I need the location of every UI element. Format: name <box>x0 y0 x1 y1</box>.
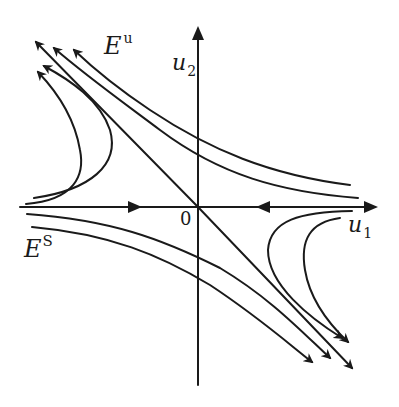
u1-subscript: 1 <box>363 225 372 241</box>
u2-axis-arrowhead-icon <box>192 26 204 40</box>
u2-subscript: 2 <box>187 63 196 79</box>
es-base: E <box>24 235 42 263</box>
es-superscript: S <box>43 232 53 250</box>
u1-base: u <box>348 212 362 237</box>
trajectory-upper-1 <box>74 50 350 185</box>
u2-axis-label: u2 <box>172 52 196 74</box>
eu-base: E <box>104 32 122 60</box>
stable-flow-arrow-right-icon <box>256 201 270 213</box>
eu-superscript: u <box>124 30 133 46</box>
origin-label: 0 <box>180 210 191 228</box>
trajectory-lower-1 <box>27 214 330 358</box>
stable-subspace-label: ES <box>24 237 53 261</box>
stable-flow-arrow-left-icon <box>128 201 142 213</box>
saddle-phase-portrait <box>0 0 399 407</box>
trajectory-lower-2 <box>32 227 312 362</box>
trajectory-left-2 <box>26 72 81 204</box>
unstable-subspace-label: Eu <box>104 34 133 58</box>
u1-axis-arrowhead-icon <box>364 201 378 213</box>
u2-base: u <box>172 50 186 75</box>
trajectory-right-1 <box>268 211 352 338</box>
u1-axis-label: u1 <box>348 214 372 236</box>
trajectory-upper-2 <box>54 48 358 198</box>
